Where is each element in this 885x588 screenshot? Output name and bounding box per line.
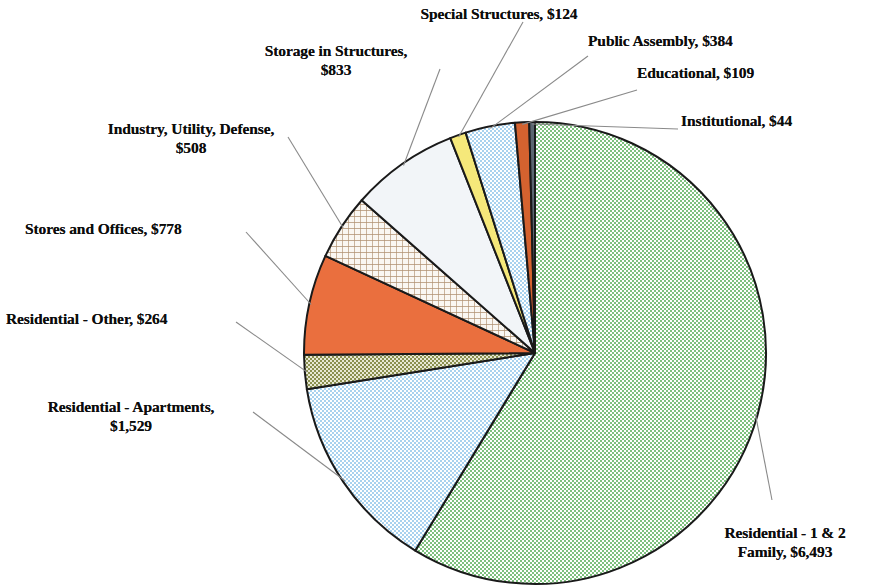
leader-line bbox=[459, 22, 523, 137]
pie-chart-figure: Residential - 1 & 2 Family, $6,493Reside… bbox=[0, 0, 885, 588]
slice-label-industry-utility-defense: Industry, Utility, Defense, $508 bbox=[75, 119, 307, 157]
slice-label-public-assembly: Public Assembly, $384 bbox=[588, 31, 818, 50]
slice-label-residential-1-2-family: Residential - 1 & 2 Family, $6,493 bbox=[690, 523, 880, 561]
slice-label-residential-other: Residential - Other, $264 bbox=[6, 309, 246, 328]
leader-line bbox=[522, 90, 637, 124]
leader-line bbox=[756, 415, 773, 500]
slice-label-educational: Educational, $109 bbox=[637, 63, 847, 82]
pie-chart-svg: Residential - 1 & 2 Family, $6,493Reside… bbox=[0, 0, 885, 588]
slice-label-stores-and-offices: Stores and Offices, $778 bbox=[25, 219, 265, 238]
slice-label-residential-apartments: Residential - Apartments, $1,529 bbox=[0, 397, 262, 435]
pie-slice-group: Residential - 1 & 2 Family, $6,493Reside… bbox=[304, 122, 766, 584]
leader-line bbox=[246, 232, 311, 305]
slice-label-special-structures: Special Structures, $124 bbox=[384, 4, 614, 23]
slice-label-storage-in-structures: Storage in Structures, $833 bbox=[231, 41, 441, 79]
leader-line bbox=[236, 322, 307, 372]
leader-line bbox=[490, 56, 588, 128]
slice-label-institutional: Institutional, $44 bbox=[681, 111, 881, 130]
